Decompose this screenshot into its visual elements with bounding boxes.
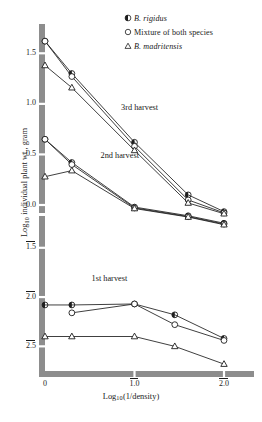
annotation-2nd-harvest: 2nd harvest bbox=[100, 151, 138, 160]
y-axis-title-subscript: 10 bbox=[23, 217, 30, 224]
half-filled-circle-icon bbox=[122, 14, 134, 24]
legend-item-mixture: Mixture of both species bbox=[122, 26, 213, 40]
series-line bbox=[45, 41, 224, 211]
x-axis-title-text: (1/density) bbox=[123, 392, 159, 401]
data-point-open-circle bbox=[69, 310, 75, 316]
series-line bbox=[72, 304, 224, 340]
chart-plot-area bbox=[0, 0, 262, 422]
open-triangle-icon bbox=[122, 42, 134, 52]
data-point-open-circle bbox=[132, 301, 138, 307]
x-axis-bar bbox=[39, 371, 254, 377]
legend-item-b-rigidus: B. rigidus bbox=[122, 12, 213, 26]
legend-item-b-madritensis: B. madritensis bbox=[122, 40, 213, 54]
legend-label-b-madritensis: B. madritensis bbox=[134, 43, 182, 51]
y-axis-tick-label-6: 2.5 bbox=[14, 341, 36, 350]
data-point-open-circle bbox=[172, 322, 178, 328]
series-group bbox=[42, 38, 227, 216]
data-point-open-circle bbox=[69, 74, 75, 80]
data-point-open-circle bbox=[42, 136, 48, 142]
y-axis-tick-label-0: 1.5 bbox=[14, 48, 36, 57]
x-axis-tick-label-0: 0 bbox=[31, 379, 59, 388]
data-point-open-circle bbox=[221, 338, 227, 344]
y-axis-title: Log10 individual plant wt., gram bbox=[20, 88, 29, 278]
y-axis-title-text: individual plant wt., gram bbox=[20, 128, 29, 217]
figure-container: B. rigidus Mixture of both species B. ma… bbox=[0, 0, 262, 422]
open-circle-icon bbox=[122, 28, 134, 38]
legend-label-b-rigidus: B. rigidus bbox=[134, 15, 167, 23]
x-axis-tick-label-2: 2.0 bbox=[210, 379, 238, 388]
series-line bbox=[45, 171, 224, 225]
data-point-open-triangle bbox=[69, 84, 75, 90]
annotation-3rd-harvest: 3rd harvest bbox=[121, 103, 158, 112]
x-axis-title-subscript: 10 bbox=[116, 394, 123, 401]
x-axis-title: Log10(1/density) bbox=[0, 392, 262, 401]
x-axis-tick-label-1: 1.0 bbox=[121, 379, 149, 388]
y-axis-tick-label-5: 2.0 bbox=[14, 292, 36, 301]
series-line bbox=[45, 41, 224, 213]
series-group bbox=[42, 301, 227, 366]
data-point-open-triangle bbox=[131, 333, 137, 339]
legend-label-mixture: Mixture of both species bbox=[134, 29, 213, 37]
data-point-open-triangle bbox=[69, 167, 75, 173]
chart-legend: B. rigidus Mixture of both species B. ma… bbox=[122, 12, 213, 54]
data-point-open-circle bbox=[42, 38, 48, 44]
series-line bbox=[45, 337, 224, 365]
data-point-open-triangle bbox=[69, 333, 75, 339]
annotation-1st-harvest: 1st harvest bbox=[92, 274, 128, 283]
y-axis-bar bbox=[39, 24, 45, 375]
